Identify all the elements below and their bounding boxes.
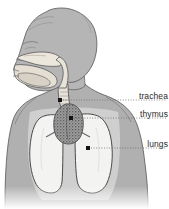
- marker-dot-trachea: [58, 98, 62, 102]
- label-lungs: lungs: [147, 139, 168, 149]
- label-thymus: thymus: [140, 109, 168, 119]
- anatomy-illustration: [0, 0, 169, 209]
- marker-dot-lungs: [86, 146, 90, 150]
- anatomy-figure: trachea thymus lungs: [0, 0, 169, 209]
- marker-dot-thymus: [69, 116, 73, 120]
- label-trachea: trachea: [139, 91, 168, 101]
- thymus-gland: [54, 104, 84, 144]
